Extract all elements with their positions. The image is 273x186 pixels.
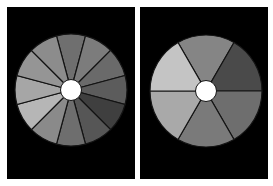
six-segment-gray-wheel — [140, 7, 268, 179]
right-panel — [140, 7, 268, 179]
wheel-hub — [61, 80, 82, 101]
left-panel — [7, 7, 135, 179]
wheel-hub — [196, 81, 217, 102]
twelve-segment-gray-wheel — [7, 7, 135, 179]
